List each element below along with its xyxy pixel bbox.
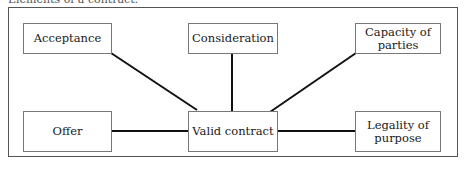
node-label: Consideration	[192, 32, 274, 45]
node-acceptance: Acceptance	[23, 23, 112, 54]
node-offer: Offer	[23, 111, 112, 152]
node-label: Capacity of parties	[363, 26, 433, 52]
node-capacity: Capacity of parties	[355, 23, 441, 54]
node-label: Legality of purpose	[363, 119, 433, 145]
node-label: Valid contract	[192, 125, 273, 138]
edge-acceptance	[111, 53, 197, 110]
edge-capacity	[270, 53, 356, 112]
node-consideration: Consideration	[188, 23, 278, 54]
node-label: Acceptance	[34, 32, 101, 45]
node-valid-contract: Valid contract	[188, 111, 278, 152]
node-legality: Legality of purpose	[355, 111, 441, 152]
node-label: Offer	[53, 125, 83, 138]
